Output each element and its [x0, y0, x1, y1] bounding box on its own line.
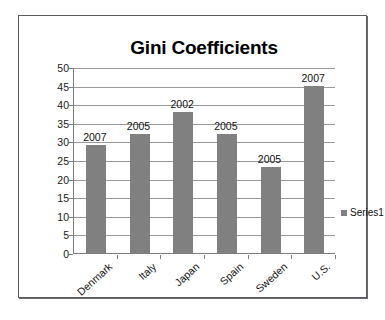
x-axis-tick-mark	[204, 255, 205, 259]
y-axis-tick-mark	[69, 198, 73, 199]
x-axis-tick-mark	[291, 255, 292, 259]
y-axis-tick-mark	[69, 105, 73, 106]
y-axis-tick-label: 15	[47, 193, 69, 204]
y-axis-tick-mark	[69, 235, 73, 236]
x-axis-tick-mark	[248, 255, 249, 259]
y-axis-tick-label: 10	[47, 212, 69, 223]
y-axis-tick-label: 45	[47, 81, 69, 92]
bar-value-label: 2007	[291, 73, 335, 84]
gridline	[74, 161, 335, 162]
chart-screenshot: Gini Coefficients 50454035302520151050 D…	[0, 0, 385, 320]
bar	[86, 145, 106, 253]
bar-value-label: 2005	[204, 121, 248, 132]
bar	[261, 167, 281, 253]
x-axis-tick-mark	[117, 255, 118, 259]
gridline	[74, 87, 335, 88]
gridline	[74, 198, 335, 199]
x-axis-tick-mark	[160, 255, 161, 259]
x-axis-tick-mark	[335, 255, 336, 259]
y-axis-tick-mark	[69, 217, 73, 218]
gridline	[74, 217, 335, 218]
gridline	[74, 180, 335, 181]
plot-area	[73, 68, 335, 254]
y-axis-tick-label: 25	[47, 156, 69, 167]
bar-value-label: 2005	[248, 154, 292, 165]
legend-swatch-series1	[341, 210, 347, 216]
bar-value-label: 2005	[117, 121, 161, 132]
y-axis-tick-label: 20	[47, 174, 69, 185]
y-axis-tick-mark	[69, 180, 73, 181]
chart-legend: Series1	[341, 208, 384, 218]
gridline	[74, 68, 335, 69]
y-axis-tick-mark	[69, 161, 73, 162]
gridline	[74, 105, 335, 106]
bar	[130, 134, 150, 253]
y-axis-tick-label: 50	[47, 63, 69, 74]
bar-value-label: 2002	[160, 99, 204, 110]
y-axis-tick-labels: 50454035302520151050	[41, 68, 69, 254]
bar-value-label: 2007	[73, 132, 117, 143]
bar	[217, 134, 237, 253]
legend-label-series1: Series1	[350, 208, 384, 218]
y-axis-tick-label: 0	[47, 249, 69, 260]
y-axis-tick-label: 35	[47, 119, 69, 130]
y-axis-tick-mark	[69, 87, 73, 88]
y-axis-tick-label: 30	[47, 137, 69, 148]
y-axis-tick-mark	[69, 254, 73, 255]
y-axis-tick-label: 5	[47, 230, 69, 241]
y-axis-tick-mark	[69, 124, 73, 125]
gridline	[74, 235, 335, 236]
y-axis-tick-mark	[69, 68, 73, 69]
bar	[304, 86, 324, 253]
y-axis-tick-label: 40	[47, 100, 69, 111]
chart-frame: Gini Coefficients 50454035302520151050 D…	[18, 15, 367, 298]
chart-title: Gini Coefficients	[73, 37, 335, 59]
bar	[173, 112, 193, 253]
